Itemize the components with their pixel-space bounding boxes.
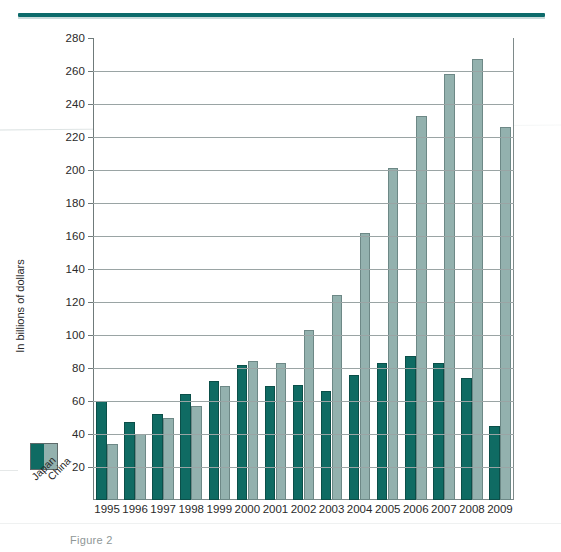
y-axis-tick-label: 40 [45,428,85,440]
y-axis-tick-label: 180 [45,197,85,209]
x-axis-tick-labels: 1995199619971998199920002001200220032004… [93,503,514,523]
y-axis-tick [88,401,93,402]
y-axis-tick [88,434,93,435]
gridline [93,434,514,435]
gridline [93,467,514,468]
x-axis-tick-label-2007: 2007 [431,503,457,515]
y-axis-tick [88,335,93,336]
x-axis-tick-label-2006: 2006 [403,503,429,515]
bar-china-1995 [107,444,118,500]
y-axis-tick-label: 80 [45,362,85,374]
gridline [93,236,514,237]
y-axis-tick-label: 60 [45,395,85,407]
bar-japan-2005 [377,363,388,500]
x-axis-tick-label-1997: 1997 [150,503,176,515]
bar-japan-2000 [237,365,248,500]
x-axis-tick-label-1995: 1995 [94,503,120,515]
x-axis-tick-label-1996: 1996 [122,503,148,515]
x-axis-tick-label-1998: 1998 [178,503,204,515]
gridline [93,137,514,138]
bar-china-2002 [304,330,315,500]
bar-china-2003 [332,295,343,500]
y-axis-tick [88,38,93,39]
gridline [93,170,514,171]
gridline [93,269,514,270]
bar-china-2000 [248,361,259,500]
y-axis-tick [88,71,93,72]
x-axis-tick-label-2004: 2004 [347,503,373,515]
x-axis-tick-label-2002: 2002 [291,503,317,515]
y-axis-tick [88,236,93,237]
gridline [93,71,514,72]
y-axis-tick [88,137,93,138]
bar-japan-1999 [209,381,220,500]
y-axis-tick [88,302,93,303]
y-axis-tick-label: 260 [45,65,85,77]
x-axis-tick-label-2009: 2009 [487,503,513,515]
x-axis-tick-label-2000: 2000 [235,503,261,515]
gridline [93,203,514,204]
bar-china-2007 [444,74,455,500]
bar-japan-1998 [180,394,191,500]
y-axis-tick [88,203,93,204]
bar-china-1999 [220,386,231,500]
bar-chart-figure: 20406080100120140160180200220240260280 I… [0,0,561,552]
y-axis-tick [88,269,93,270]
gridline [93,302,514,303]
legend: Japan China [26,443,88,513]
x-axis-tick-label-2008: 2008 [459,503,485,515]
y-axis-tick [88,368,93,369]
bar-china-2009 [500,127,511,500]
bar-japan-2006 [405,356,416,500]
x-axis-tick-label-2001: 2001 [263,503,289,515]
x-axis-tick-label-2003: 2003 [319,503,345,515]
y-axis-tick-label: 240 [45,98,85,110]
x-axis-tick-label-1999: 1999 [207,503,233,515]
bar-japan-2009 [489,426,500,500]
y-axis-tick-label: 160 [45,230,85,242]
y-axis-title: In billions of dollars [14,226,26,386]
bar-japan-2003 [321,391,332,500]
y-axis-tick-label: 100 [45,329,85,341]
x-axis-tick-label-2005: 2005 [375,503,401,515]
y-axis-tick [88,170,93,171]
gridline [93,401,514,402]
gridline [93,368,514,369]
bar-china-2004 [360,233,371,500]
y-axis-tick-label: 200 [45,164,85,176]
gridline [93,104,514,105]
bar-china-1997 [163,418,174,501]
y-axis-tick [88,104,93,105]
bar-japan-1995 [96,401,107,500]
gridline [93,335,514,336]
bar-china-2006 [416,116,427,500]
bar-japan-2007 [433,363,444,500]
y-axis-tick [88,467,93,468]
bar-japan-2001 [265,386,276,500]
bar-japan-2008 [461,378,472,500]
y-axis-tick-label: 220 [45,131,85,143]
figure-caption: Figure 2 [70,534,113,546]
y-axis-tick-label: 140 [45,263,85,275]
bar-china-1998 [191,406,202,500]
bar-japan-2004 [349,375,360,500]
bar-china-2001 [276,363,287,500]
y-axis-tick-label: 280 [45,32,85,44]
bar-japan-1997 [152,414,163,500]
y-axis-tick-label: 120 [45,296,85,308]
